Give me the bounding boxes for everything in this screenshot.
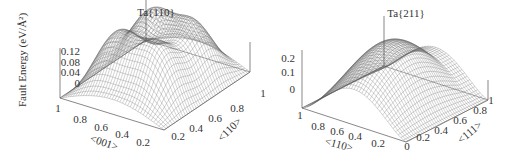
y-tick-0-6: 0.6 [453,114,467,126]
y-tick-0-4: 0.4 [434,124,448,136]
y-tick-0-4: 0.4 [189,122,203,134]
y-tick-0-8: 0.8 [230,102,244,114]
x-tick-0-2: 0.2 [136,136,150,148]
y-tick-0-6: 0.6 [208,112,222,124]
chart-title-ta211: Ta{211} [387,7,425,19]
stray-tick-1: 1 [260,87,266,99]
z-tick-0-1: 0.1 [281,66,295,78]
x-tick-0-6: 0.6 [94,121,108,133]
x-tick-0-8: 0.8 [311,120,325,132]
panel-ta211: Ta{211} 1 0.2 0.1 0 1 0.8 0.6 0.4 0.2 0 … [260,7,494,154]
z-tick-0-2: 0.2 [281,52,295,64]
figure: Ta{110} Fault Energy (eV/Å²) 0.12 0.08 0… [0,0,506,157]
y-tick-1: 1 [488,94,494,106]
chart-title-ta110: Ta{110} [137,6,175,18]
x-tick-0-8: 0.8 [73,113,87,125]
x-tick-1: 1 [297,109,303,121]
x-tick-0: 0 [404,140,410,152]
x-tick-0-4: 0.4 [115,128,129,140]
x-tick-1: 1 [55,102,61,114]
y-tick-0-2: 0.2 [416,131,430,143]
panel-ta110: Ta{110} Fault Energy (eV/Å²) 0.12 0.08 0… [16,0,250,152]
z-axis-label: Fault Energy (eV/Å²) [16,13,29,107]
y-tick-0-2: 0.2 [171,130,185,142]
z-tick-0: 0 [75,77,81,89]
y-tick-0-8: 0.8 [473,104,487,116]
x-tick-0-2: 0.2 [371,137,385,149]
z-tick-0: 0 [290,83,296,95]
